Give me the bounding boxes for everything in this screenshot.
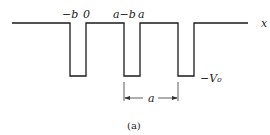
arrowhead-right-icon <box>172 96 178 100</box>
label-period: a <box>148 92 155 105</box>
label-well-depth: −V₀ <box>200 72 222 85</box>
figure-caption: (a) <box>127 120 141 131</box>
potential-diagram: −b 0 a−b a x −V₀ a (a) <box>0 0 270 135</box>
label-a: a <box>138 8 145 21</box>
label-neg-b: −b <box>62 8 78 21</box>
diagram-canvas: −b 0 a−b a x −V₀ a (a) <box>0 0 270 135</box>
arrowhead-left-icon <box>124 96 130 100</box>
label-zero: 0 <box>83 8 90 21</box>
label-a-minus-b: a−b <box>113 8 136 21</box>
axis-label-x: x <box>261 17 268 30</box>
potential-curve <box>12 23 248 76</box>
